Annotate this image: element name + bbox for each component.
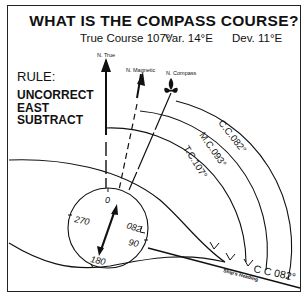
hull-lower-line (9, 243, 225, 268)
fleur-de-lis-icon (164, 78, 178, 93)
compass-needle (101, 210, 115, 250)
compass-course-arc-label: C.C.082° (216, 117, 249, 154)
card-west-label: 270 (73, 214, 91, 227)
card-heading-label: 082 (125, 220, 142, 234)
magnetic-course-arrowhead-icon (226, 253, 235, 260)
true-north-arrow-icon (101, 58, 111, 72)
card-east-label: 90 (128, 237, 140, 249)
card-north-label: 0 (105, 195, 110, 205)
true-course-arrowhead-icon (210, 242, 219, 249)
true-course-arc-label: T.C.107° (181, 143, 210, 180)
magnetic-north-label: N. Magnetic (126, 67, 156, 73)
needle-tip-icon (111, 204, 118, 215)
compass-course-arrowhead-icon (244, 259, 253, 266)
true-north-label: N. True (97, 52, 115, 58)
true-course-arc (106, 128, 246, 262)
compass-north-line (129, 93, 171, 190)
compass-course-diagram: 0 270 180 90 082 N. True N. Magnetic N. … (0, 0, 306, 298)
compass-north-label: N. Compass (166, 70, 197, 76)
